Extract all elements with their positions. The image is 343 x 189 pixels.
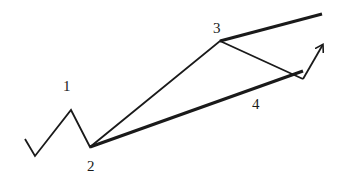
label-2: 2 [87,158,95,174]
wave-diagram: 1 2 3 4 [0,0,343,189]
arrow-icon [303,45,323,79]
label-3: 3 [213,20,221,36]
label-1: 1 [63,78,71,94]
channel-upper-line [220,14,322,41]
diagram-svg: 1 2 3 4 [0,0,343,189]
label-4: 4 [252,96,260,112]
channel-lower-line [90,71,303,147]
wave-path [25,41,303,156]
